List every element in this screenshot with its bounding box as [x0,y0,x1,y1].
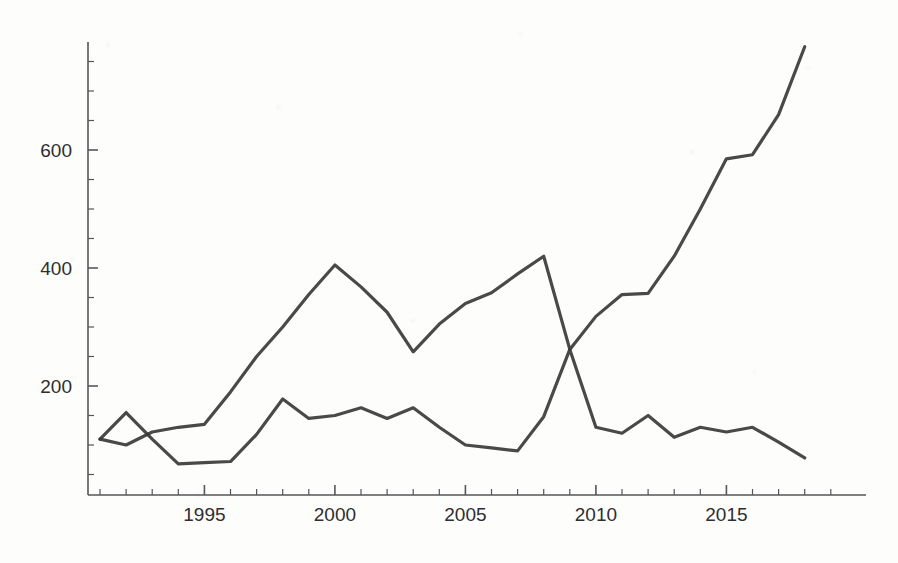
y-axis-tick-label: 600 [40,140,72,161]
line-chart: 20040060019952000200520102015 [0,0,898,563]
data-line-series-declining [100,349,805,463]
x-axis-tick-label: 2015 [705,504,747,525]
plot-area: 20040060019952000200520102015 [0,0,898,563]
y-axis-tick-label: 400 [40,258,72,279]
y-axis-tick-label: 200 [40,376,72,397]
x-axis-tick-label: 2000 [314,504,356,525]
x-axis-tick-label: 1995 [183,504,225,525]
data-line-series-rising [100,47,805,445]
x-axis-tick-label: 2005 [444,504,486,525]
x-axis-tick-label: 2010 [575,504,617,525]
